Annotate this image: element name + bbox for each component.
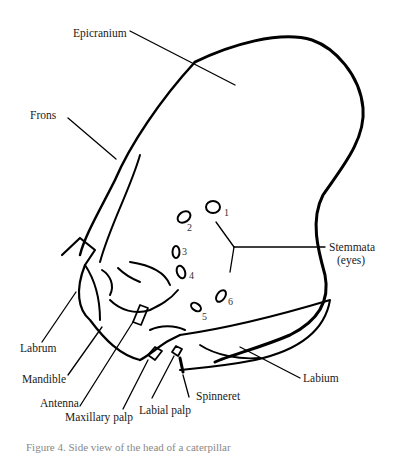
leader-frons: [68, 118, 116, 159]
leader-stemmata-up: [216, 222, 234, 247]
label-labrum: Labrum: [20, 342, 56, 355]
stemma-4: [175, 265, 187, 280]
label-mandible: Mandible: [22, 373, 66, 386]
leader-mandible: [68, 327, 102, 375]
leader-antenna: [80, 322, 133, 406]
stemma-number-5: 5: [202, 311, 207, 322]
stemma-3: [173, 246, 180, 258]
stemma-number-3: 3: [182, 246, 187, 257]
leader-stemmata-down: [230, 247, 234, 272]
frons-outline: [80, 62, 195, 255]
label-antenna: Antenna: [40, 397, 79, 410]
label-epicranium: Epicranium: [73, 27, 127, 40]
stemma-number-1: 1: [224, 207, 229, 218]
stemma-6: [214, 288, 228, 303]
labium-inner: [200, 345, 260, 358]
leader-spinneret: [183, 375, 189, 397]
leader-maxillary-palp: [123, 360, 148, 409]
stemma-number-2: 2: [187, 222, 192, 233]
stemma-5: [189, 301, 202, 313]
antenna-segment: [133, 305, 148, 325]
mandible-outline: [85, 265, 100, 320]
stemma-number-6: 6: [228, 296, 233, 307]
label-frons: Frons: [30, 109, 56, 122]
leader-labium: [240, 347, 300, 378]
label-labial-palp: Labial palp: [139, 404, 191, 417]
leader-labial-palp: [152, 356, 174, 398]
label-maxillary-palp: Maxillary palp: [65, 411, 133, 424]
stemma-1: [206, 201, 220, 213]
head-capsule-outline: [195, 37, 363, 362]
label-stemmata-eyes: (eyes): [337, 254, 365, 267]
figure-caption: Figure 4. Side view of the head of a cat…: [26, 441, 231, 453]
label-stemmata: Stemmata: [329, 241, 375, 254]
label-spinneret: Spinneret: [196, 390, 240, 403]
label-labium: Labium: [303, 372, 339, 385]
mandible-detail: [102, 262, 170, 295]
leader-labrum: [42, 292, 76, 342]
labial-palp-segment: [172, 346, 182, 356]
stemma-number-4: 4: [189, 270, 194, 281]
